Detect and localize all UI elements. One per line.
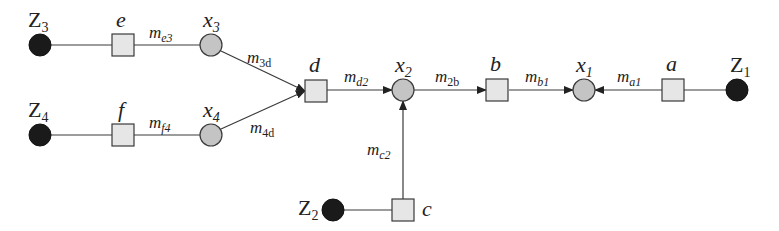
label-z2: Z2 [298,195,318,223]
variable-node-x1 [573,79,595,101]
label-d: d [309,52,321,77]
message-label-md2: md2 [344,67,368,89]
factor-graph-diagram: Z3 Z4 Z2 Z1 e f d b a c x3 x4 x2 x1 me3 … [0,0,779,231]
factor-node-c [392,199,414,221]
observed-node-z3 [29,34,51,56]
message-label-m4d: m4d [250,118,274,140]
label-b: b [490,51,501,76]
label-x1: x1 [575,52,593,80]
message-label-m3d: m3d [247,48,271,70]
message-label-mb1: mb1 [525,67,549,89]
label-f: f [118,97,127,122]
variable-node-x2 [392,79,414,101]
message-label-m2b: m2b [435,67,459,89]
message-label-ma1: ma1 [617,67,641,89]
edges [40,45,737,210]
factor-node-d [305,80,327,102]
message-label-mc2: mc2 [367,140,391,162]
variable-node-x4 [200,124,222,146]
edge-x4-d [221,91,305,129]
label-c: c [422,196,432,221]
observed-node-z2 [322,199,344,221]
variable-node-x3 [200,34,222,56]
message-label-me3: me3 [149,23,173,45]
message-label-mf4: mf4 [149,113,171,135]
factor-node-f [112,124,134,146]
label-z1: Z1 [730,52,750,80]
label-x3: x3 [202,7,220,35]
factor-node-e [112,34,134,56]
observed-node-z1 [726,79,748,101]
label-x2: x2 [394,52,412,80]
label-e: e [116,7,126,32]
observed-node-z4 [29,124,51,146]
factor-node-b [486,79,508,101]
label-a: a [666,51,677,76]
label-z4: Z4 [28,97,48,125]
label-x4: x4 [202,97,220,125]
label-z3: Z3 [28,7,48,35]
factor-node-a [662,79,684,101]
